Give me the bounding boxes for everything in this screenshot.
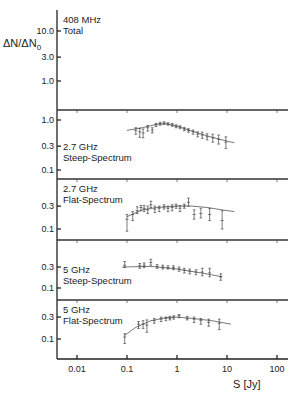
x-tick-label: 100 bbox=[269, 364, 284, 374]
data-point bbox=[187, 198, 190, 206]
panel-label-line2: Flat-Spectrum bbox=[63, 194, 123, 205]
data-point bbox=[221, 211, 224, 229]
data-point bbox=[199, 208, 202, 218]
data-point bbox=[192, 130, 195, 134]
panel-label-line1: 2.7 GHz bbox=[63, 183, 98, 194]
y-tick-label: 0.3 bbox=[41, 141, 54, 151]
y-tick-label: 0.1 bbox=[41, 224, 54, 234]
data-point bbox=[219, 274, 222, 280]
panel-label-line1: 2.7 GHz bbox=[63, 141, 98, 152]
y-tick-label: 0.1 bbox=[41, 283, 54, 293]
data-point bbox=[195, 270, 198, 275]
data-point bbox=[179, 126, 182, 129]
data-point bbox=[218, 319, 221, 329]
data-point bbox=[149, 259, 152, 265]
data-point bbox=[151, 128, 154, 133]
panel-2: 1.00.30.12.7 GHzSteep-Spectrum bbox=[41, 110, 288, 175]
data-point bbox=[193, 317, 196, 322]
data-point bbox=[163, 205, 166, 209]
data-point bbox=[149, 201, 152, 207]
panel-5: 0.30.15 GHzFlat-Spectrum bbox=[41, 300, 288, 344]
panel-label-line2: Total bbox=[63, 25, 83, 36]
y-axis-title: ΔN/ΔN0 bbox=[3, 37, 42, 52]
source-counts-chart: ΔN/ΔN0 10.03.01.0408 MHzTotal1.00.30.12.… bbox=[0, 0, 306, 401]
data-point bbox=[183, 204, 186, 208]
y-tick-label: 0.1 bbox=[41, 165, 54, 175]
data-point bbox=[201, 132, 204, 138]
panel-label-line2: Steep-Spectrum bbox=[63, 275, 132, 286]
y-tick-label: 1.0 bbox=[41, 115, 54, 125]
data-point bbox=[161, 265, 164, 269]
fit-curve bbox=[125, 317, 231, 335]
x-tick-label: 0.1 bbox=[121, 364, 134, 374]
data-point bbox=[153, 318, 156, 323]
data-point bbox=[206, 134, 209, 140]
data-point bbox=[146, 206, 149, 213]
data-point bbox=[171, 124, 174, 127]
panel-label-line1: 5 GHz bbox=[63, 264, 90, 275]
data-point bbox=[154, 123, 157, 126]
data-point bbox=[156, 265, 159, 269]
data-point bbox=[175, 125, 178, 128]
panel-label-line2: Flat-Spectrum bbox=[63, 315, 123, 326]
data-point bbox=[160, 317, 163, 321]
data-point bbox=[126, 215, 129, 232]
data-point bbox=[138, 128, 141, 137]
data-point bbox=[123, 334, 126, 344]
panels: 10.03.01.0408 MHzTotal1.00.30.12.7 GHzSt… bbox=[36, 14, 288, 344]
y-tick-label: 3.0 bbox=[41, 52, 54, 62]
data-point bbox=[159, 122, 162, 125]
data-point bbox=[131, 212, 134, 221]
y-tick-label: 10.0 bbox=[36, 26, 54, 36]
y-tick-label: 0.3 bbox=[41, 262, 54, 272]
x-ticks: 0.010.1110100 bbox=[68, 355, 284, 374]
data-point bbox=[211, 134, 214, 142]
data-point bbox=[142, 129, 145, 138]
y-tick-label: 0.1 bbox=[41, 334, 54, 344]
x-tick-label: 1 bbox=[174, 364, 179, 374]
data-point bbox=[186, 316, 189, 320]
data-point bbox=[138, 264, 141, 269]
panel-3: 0.30.12.7 GHzFlat-Spectrum bbox=[41, 179, 288, 234]
panel-label-line2: Steep-Spectrum bbox=[63, 152, 132, 163]
y-tick-label: 0.3 bbox=[41, 312, 54, 322]
data-point bbox=[178, 267, 181, 271]
data-point bbox=[208, 208, 211, 220]
y-tick-label: 1.0 bbox=[41, 76, 54, 86]
data-point bbox=[137, 322, 140, 329]
data-point bbox=[217, 135, 220, 144]
x-axis-title: S [Jy] bbox=[233, 378, 261, 390]
data-point bbox=[143, 205, 146, 211]
panel-1: 10.03.01.0408 MHzTotal bbox=[36, 14, 101, 86]
panel-4: 0.30.15 GHzSteep-Spectrum bbox=[41, 240, 288, 293]
data-point bbox=[171, 205, 174, 211]
data-point bbox=[193, 210, 196, 219]
data-point bbox=[201, 268, 204, 275]
data-point bbox=[153, 206, 156, 212]
data-point bbox=[188, 269, 191, 274]
x-tick-label: 10 bbox=[222, 364, 232, 374]
data-point bbox=[183, 268, 186, 273]
x-tick-label: 0.01 bbox=[68, 364, 86, 374]
panel-label-line1: 408 MHz bbox=[63, 14, 101, 25]
y-tick-label: 0.3 bbox=[41, 201, 54, 211]
data-point bbox=[208, 268, 211, 276]
panel-label-line1: 5 GHz bbox=[63, 304, 90, 315]
data-point bbox=[175, 204, 178, 208]
data-point bbox=[168, 316, 171, 320]
data-point bbox=[224, 137, 227, 149]
